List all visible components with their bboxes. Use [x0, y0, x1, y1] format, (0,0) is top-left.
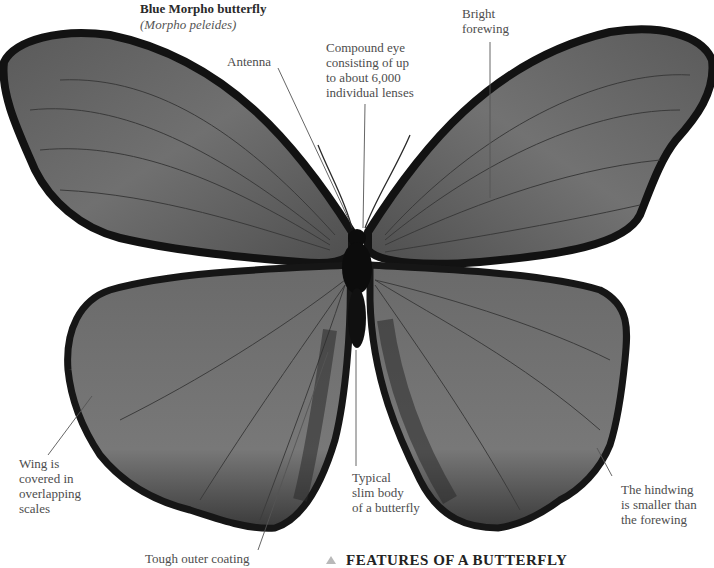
label-line: Wing is — [19, 456, 81, 471]
leader-compound-eye — [363, 104, 365, 228]
section-heading: FEATURES OF A BUTTERFLY — [326, 552, 567, 568]
scientific-name: (Morpho peleides) — [140, 17, 266, 33]
label-compound-eye: Compound eye consisting of up to about 6… — [326, 40, 414, 100]
label-line: overlapping — [19, 486, 81, 501]
label-line: the forewing — [621, 512, 697, 527]
label-line: Bright — [462, 6, 509, 21]
label-line: consisting of up — [326, 55, 414, 70]
label-hindwing: The hindwing is smaller than the forewin… — [621, 482, 697, 527]
label-line: of a butterfly — [352, 500, 420, 515]
label-line: forewing — [462, 21, 509, 36]
label-line: slim body — [352, 485, 420, 500]
right-forewing — [368, 29, 713, 263]
label-line: is smaller than — [621, 497, 697, 512]
label-outer-coating-text: Tough outer coating — [145, 551, 250, 566]
diagram-title: Blue Morpho butterfly (Morpho peleides) — [140, 1, 266, 33]
label-line: The hindwing — [621, 482, 697, 497]
label-antenna: Antenna — [227, 54, 271, 69]
label-line: scales — [19, 501, 81, 516]
label-line: to about 6,000 — [326, 70, 414, 85]
label-line: Compound eye — [326, 40, 414, 55]
label-wing-scales: Wing is covered in overlapping scales — [19, 456, 81, 516]
left-forewing — [3, 33, 352, 263]
section-heading-text: FEATURES OF A BUTTERFLY — [346, 552, 567, 568]
label-line: covered in — [19, 471, 81, 486]
label-outer-coating: Tough outer coating — [145, 551, 250, 566]
label-line: individual lenses — [326, 85, 414, 100]
triangle-marker-icon — [326, 556, 336, 564]
butterfly-diagram: Blue Morpho butterfly (Morpho peleides) … — [0, 0, 714, 568]
label-line: Typical — [352, 470, 420, 485]
label-antenna-text: Antenna — [227, 54, 271, 69]
label-bright-forewing: Bright forewing — [462, 6, 509, 36]
label-slim-body: Typical slim body of a butterfly — [352, 470, 420, 515]
common-name: Blue Morpho butterfly — [140, 1, 266, 17]
left-hindwing — [68, 265, 351, 528]
